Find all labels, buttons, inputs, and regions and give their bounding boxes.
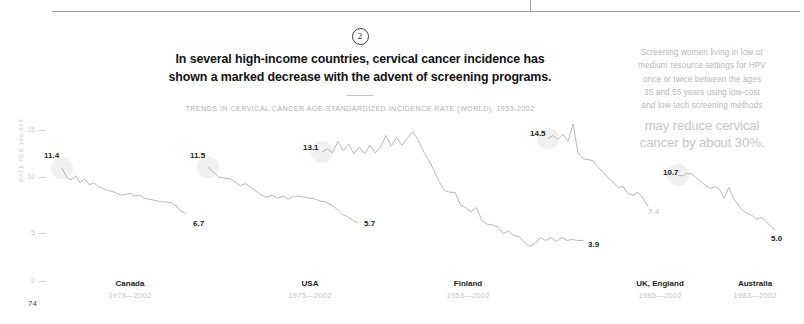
value-label-australia-end: 5.0 bbox=[771, 234, 782, 243]
series-years-canada: 1978—2002 bbox=[70, 291, 190, 300]
series-footer-usa: USA 1975—2002 bbox=[250, 279, 370, 300]
value-label-canada-end: 6.7 bbox=[193, 219, 204, 228]
series-line-finland bbox=[322, 132, 583, 247]
header-block: 2 In several high-income countries, cerv… bbox=[120, 28, 600, 113]
sidebar-paragraph-line-4: 35 and 55 years using low-cost bbox=[612, 86, 792, 99]
series-name-finland: Finland bbox=[408, 279, 528, 288]
y-tick-5-value: 5 bbox=[31, 229, 35, 236]
y-tick-0: 0 bbox=[24, 277, 46, 284]
page-title: In several high-income countries, cervic… bbox=[120, 51, 600, 86]
series-footer-canada: Canada 1978—2002 bbox=[70, 279, 190, 300]
series-line-uk-england bbox=[548, 124, 648, 207]
series-footer-australia: Australia 1983—2002 bbox=[695, 279, 804, 300]
series-years-australia: 1983—2002 bbox=[695, 291, 804, 300]
value-label-canada-start: 11.4 bbox=[44, 151, 59, 160]
top-divider bbox=[52, 11, 800, 12]
value-label-australia-start: 10.7 bbox=[663, 168, 679, 177]
trend-chart bbox=[0, 108, 804, 308]
y-tick-10-value: 10 bbox=[27, 173, 35, 180]
sidebar-paragraph: Screening women living in low or medium … bbox=[612, 46, 792, 112]
page-title-line-2: shown a marked decrease with the advent … bbox=[120, 69, 600, 87]
top-divider-tick bbox=[530, 0, 531, 11]
y-tick-0-dash bbox=[38, 281, 46, 282]
value-label-usa-start: 11.5 bbox=[190, 151, 205, 160]
title-divider bbox=[347, 95, 373, 96]
y-axis-label: RATE PER 100,000 bbox=[18, 102, 24, 182]
value-label-finland-start: 13.1 bbox=[303, 143, 319, 152]
chart-canvas bbox=[0, 108, 804, 308]
series-name-canada: Canada bbox=[70, 279, 190, 288]
value-label-uk-end: 7.4 bbox=[648, 207, 659, 216]
value-label-uk-start: 14.5 bbox=[530, 129, 546, 138]
y-tick-5-dash bbox=[38, 233, 46, 234]
section-number-badge: 2 bbox=[352, 28, 369, 45]
sidebar-paragraph-line-3: once or twice between the ages bbox=[612, 73, 792, 86]
page-title-line-1: In several high-income countries, cervic… bbox=[120, 51, 600, 69]
value-label-usa-end: 5.7 bbox=[364, 219, 375, 228]
y-tick-10-dash bbox=[38, 177, 46, 178]
sidebar-paragraph-line-1: Screening women living in low or bbox=[612, 46, 792, 59]
page-root: 2 In several high-income countries, cerv… bbox=[0, 0, 804, 324]
series-line-usa bbox=[208, 167, 358, 223]
series-line-australia bbox=[678, 173, 775, 230]
y-tick-0-value: 0 bbox=[31, 277, 35, 284]
value-label-finland-end: 3.9 bbox=[588, 240, 599, 249]
series-name-usa: USA bbox=[250, 279, 370, 288]
y-tick-10: 10 bbox=[24, 173, 46, 180]
y-tick-15-value: 15 bbox=[27, 126, 35, 133]
y-tick-5: 5 bbox=[24, 229, 46, 236]
y-tick-15-dash bbox=[38, 130, 46, 131]
series-years-usa: 1975—2002 bbox=[250, 291, 370, 300]
page-number: 74 bbox=[28, 299, 37, 308]
series-line-canada bbox=[62, 168, 185, 213]
series-footer-finland: Finland 1953—2002 bbox=[408, 279, 528, 300]
series-name-australia: Australia bbox=[695, 279, 804, 288]
y-tick-15: 15 bbox=[24, 126, 46, 133]
sidebar-paragraph-line-2: medium resource settings for HPV bbox=[612, 59, 792, 72]
series-years-finland: 1953—2002 bbox=[408, 291, 528, 300]
